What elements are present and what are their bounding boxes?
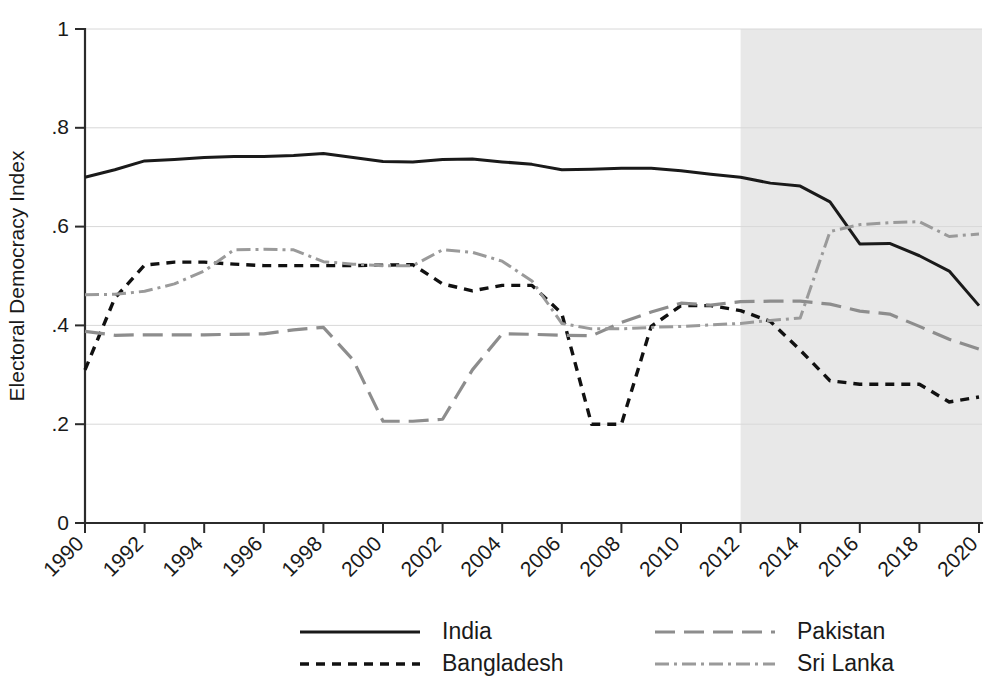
x-tick-label: 2006	[515, 532, 564, 581]
x-axis-ticks: 1990199219941996199820002002200420062008…	[39, 523, 982, 581]
x-tick-label: 2010	[635, 532, 684, 581]
x-tick-label: 2004	[456, 531, 506, 581]
y-tick-label: .8	[51, 115, 69, 138]
x-tick-label: 1992	[98, 532, 147, 581]
y-tick-label: .4	[51, 313, 69, 336]
x-tick-label: 1994	[158, 531, 208, 581]
x-tick-label: 2016	[813, 532, 862, 581]
legend-label-india: India	[442, 618, 492, 644]
y-tick-label: 1	[57, 17, 69, 40]
x-tick-label: 2000	[337, 532, 386, 581]
x-tick-label: 2020	[933, 532, 982, 581]
y-tick-label: .6	[51, 214, 69, 237]
y-tick-label: 0	[57, 511, 69, 534]
chart-legend: IndiaPakistanBangladeshSri Lanka	[300, 618, 894, 676]
x-tick-label: 2008	[575, 532, 624, 581]
x-tick-label: 1990	[39, 532, 88, 581]
y-axis-ticks: 0.2.4.6.81	[51, 17, 85, 534]
y-tick-label: .2	[51, 412, 69, 435]
line-chart: 0.2.4.6.81 19901992199419961998200020022…	[0, 0, 1000, 694]
x-tick-label: 2018	[873, 532, 922, 581]
chart-figure: 0.2.4.6.81 19901992199419961998200020022…	[0, 0, 1000, 694]
legend-label-bangladesh: Bangladesh	[442, 650, 564, 676]
shaded-period-rect	[741, 29, 982, 523]
x-tick-label: 1998	[277, 532, 326, 581]
y-axis-title: Electoral Democracy Index	[5, 150, 28, 401]
x-tick-label: 2002	[396, 532, 445, 581]
shaded-period-region	[741, 29, 982, 523]
x-tick-label: 1996	[217, 532, 266, 581]
x-tick-label: 2012	[694, 532, 743, 581]
x-tick-label: 2014	[754, 531, 804, 581]
legend-label-sri-lanka: Sri Lanka	[797, 650, 894, 676]
legend-label-pakistan: Pakistan	[797, 618, 885, 644]
